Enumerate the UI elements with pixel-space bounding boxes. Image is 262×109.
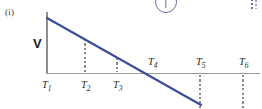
tick-guide-t5 bbox=[199, 75, 200, 109]
tick-label-t6: T6 bbox=[239, 56, 249, 70]
x-axis-line bbox=[46, 73, 260, 75]
tick-label-t1: T1 bbox=[42, 79, 52, 93]
tick-guide-t3 bbox=[116, 58, 117, 73]
tick-label-t3: T3 bbox=[113, 79, 123, 93]
part-label: (i) bbox=[5, 7, 14, 17]
tick-guide-t2 bbox=[84, 39, 85, 72]
plot-line-svg bbox=[0, 0, 262, 108]
y-axis-line bbox=[46, 12, 48, 74]
circled-symbol-artifact-icon bbox=[155, 0, 177, 13]
tick-guide-t6 bbox=[242, 75, 243, 109]
velocity-time-graph-figure: (i) V T1T2T3T4T5T6 bbox=[0, 0, 262, 108]
y-axis-label: V bbox=[33, 36, 42, 51]
dashed-mark-artifact-icon bbox=[251, 0, 253, 10]
tick-label-t2: T2 bbox=[81, 79, 91, 93]
velocity-line bbox=[47, 18, 201, 105]
dashed-mark-artifact-secondary-icon bbox=[255, 0, 257, 9]
tick-label-t4: T4 bbox=[148, 56, 158, 70]
tick-label-t5: T5 bbox=[196, 56, 206, 70]
